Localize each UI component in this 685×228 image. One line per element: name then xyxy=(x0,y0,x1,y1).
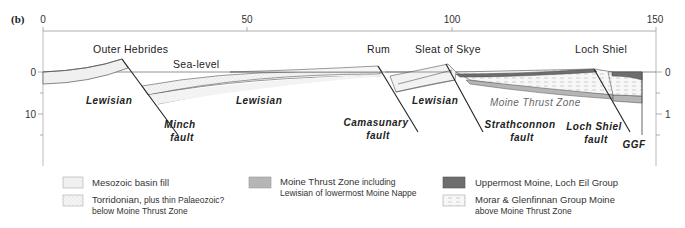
fault-label-minch-1: Minch xyxy=(164,119,195,130)
panel-label: (b) xyxy=(11,13,25,26)
legend-swatch-torridonian xyxy=(63,195,83,206)
rock-label-lewisian-2: Lewisian xyxy=(236,95,282,106)
moine-thrust-zone-label: Moine Thrust Zone xyxy=(490,97,581,108)
x-tick-0: 0 xyxy=(40,14,46,25)
place-rum: Rum xyxy=(367,43,390,55)
legend-item-mesozoic: Mesozoic basin fill xyxy=(63,177,169,188)
fault-label-ggf: GGF xyxy=(622,139,646,150)
legend-swatch-mesozoic xyxy=(63,177,83,188)
legend: Mesozoic basin fill Torridonian, plus th… xyxy=(63,176,618,216)
left-depth-axis: 0 10 xyxy=(25,31,43,166)
legend-label-moine-thrust-zone: Moine Thrust Zone including xyxy=(280,176,396,187)
x-tick-50: 50 xyxy=(241,14,253,25)
rock-label-lewisian-3: Lewisian xyxy=(412,95,458,106)
fault-label-minch-2: fault xyxy=(170,132,194,143)
cross-section-figure: (b) 0 50 100 150 0 10 0 1 Sea-level xyxy=(0,0,685,228)
legend-item-torridonian: Torridonian, plus thin Palaeozoic? below… xyxy=(63,194,225,216)
legend-label-moine-thrust-zone-line2: Lewisian of lowermost Moine Nappe xyxy=(280,188,417,198)
fault-label-camasunary-2: fault xyxy=(366,130,390,141)
fault-label-strathconnon-2: fault xyxy=(510,132,534,143)
legend-swatch-moine-thrust-zone xyxy=(249,177,271,188)
right-tick-0: 0 xyxy=(665,67,671,78)
place-loch-shiel: Loch Shiel xyxy=(575,43,627,55)
sleat-block xyxy=(385,64,456,92)
outer-hebrides-block xyxy=(43,59,128,84)
fault-label-camasunary-1: Camasunary xyxy=(343,117,408,128)
legend-item-moine-thrust-zone: Moine Thrust Zone including Lewisian of … xyxy=(249,176,417,198)
fault-label-loch-shiel-2: fault xyxy=(584,134,608,145)
legend-swatch-uppermost-moine xyxy=(443,177,465,188)
rock-label-lewisian-1: Lewisian xyxy=(86,95,132,106)
x-tick-100: 100 xyxy=(444,14,461,25)
legend-label-morar-glenfinnan: Morar & Glenfinnan Group Moine xyxy=(475,194,615,205)
left-tick-0: 0 xyxy=(30,67,36,78)
fault-label-strathconnon-1: Strathconnon xyxy=(485,119,556,130)
x-tick-150: 150 xyxy=(647,14,664,25)
place-sleat-of-skye: Sleat of Skye xyxy=(415,43,481,55)
distance-axis: 0 50 100 150 xyxy=(40,14,664,31)
right-tick-1: 1 xyxy=(665,109,671,120)
sea-level-label: Sea-level xyxy=(173,58,219,70)
legend-item-morar-glenfinnan: Morar & Glenfinnan Group Moine above Moi… xyxy=(443,194,615,216)
legend-label-morar-glenfinnan-line2: above Moine Thrust Zone xyxy=(475,206,572,216)
right-depth-axis: 0 1 xyxy=(656,31,671,166)
legend-item-uppermost-moine: Uppermost Moine, Loch Eil Group xyxy=(443,177,618,188)
legend-label-torridonian-line2: below Moine Thrust Zone xyxy=(92,206,188,216)
place-outer-hebrides: Outer Hebrides xyxy=(93,43,168,55)
left-tick-10: 10 xyxy=(25,109,37,120)
legend-label-torridonian: Torridonian, plus thin Palaeozoic? xyxy=(92,194,225,205)
legend-label-mesozoic: Mesozoic basin fill xyxy=(92,177,169,188)
legend-swatch-morar-glenfinnan xyxy=(443,195,465,206)
legend-label-uppermost-moine: Uppermost Moine, Loch Eil Group xyxy=(475,177,618,188)
fault-label-loch-shiel-1: Loch Shiel xyxy=(566,121,622,132)
